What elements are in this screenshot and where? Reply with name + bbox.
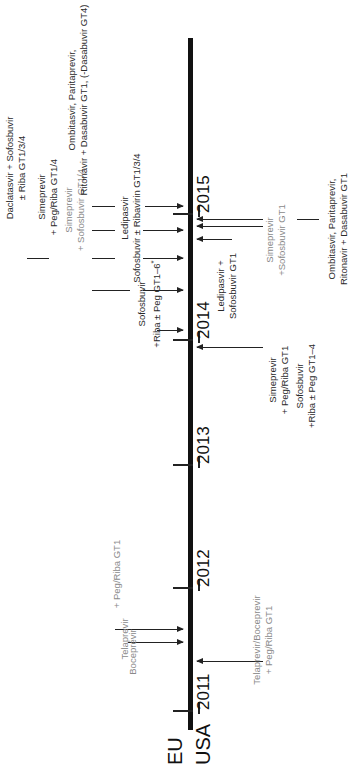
label-usa-sofosbuvir: Sofosbuvir +Riba ± Peg GT1–4 <box>294 336 322 436</box>
tick-2015-eu <box>173 213 193 215</box>
line-eu-ledipasvir <box>92 230 115 231</box>
line-eu-daclatasvir-a <box>27 258 49 259</box>
label-usa-simeprevir-sof: Simeprevir +Sofosbuvir GT1 <box>264 200 292 280</box>
year-label-2011: 2011 <box>195 673 212 710</box>
line-eu-daclatasvir-b <box>92 258 115 259</box>
line-eu-ombitasvir <box>92 206 115 207</box>
arrow-usa-ombitasvir <box>197 219 263 220</box>
timeline-axis <box>188 38 193 730</box>
year-label-2015: 2015 <box>195 175 212 213</box>
arrow-usa-ledipasvir <box>197 239 232 240</box>
tick-2011-eu <box>173 710 193 712</box>
label-eu-boceprevir: Boceprevir <box>127 572 139 732</box>
arrow-usa-simeprevir-peg <box>197 347 263 348</box>
line-usa-ombitasvir <box>297 219 319 220</box>
label-usa-ombitasvir: Ombitasvir, Paritaprevir, Ritonavir + Da… <box>326 164 352 294</box>
tick-2014-eu <box>173 339 193 341</box>
year-label-2013: 2013 <box>195 426 212 464</box>
arrow-usa-simeprevir-sof <box>197 226 263 227</box>
region-label-usa: USA <box>193 724 213 765</box>
arrow-eu-ledipasvir <box>143 230 183 231</box>
label-usa-simeprevir-peg: Simeprevir + Peg/Riba GT1 <box>267 335 295 425</box>
label-eu-peg-riba: + Peg/Riba GT1 <box>111 524 123 624</box>
year-label-2014: 2014 <box>195 301 212 339</box>
label-usa-ledipasvir: Ledipasvir + Sofosbuvir GT1 <box>215 246 243 326</box>
label-eu-ledipasvir: Ledipasvir Sofosbuvir ± Ribavirin GT1/3/… <box>119 143 147 293</box>
label-eu-ombitasvir: Ombitasvir, Paritaprevir, Ritonavir + Da… <box>66 0 94 200</box>
tick-2013-eu <box>173 464 193 466</box>
label-usa-telaprevir-boceprevir: Telaprevir/Boceprevir + Peg/Riba GT1 <box>251 585 279 695</box>
tick-2012-eu <box>173 587 193 589</box>
label-eu-simeprevir-peg: Simeprevir + Peg/Riba GT1/4 <box>36 147 64 247</box>
region-label-eu: EU <box>165 737 185 765</box>
arrow-eu-ombitasvir <box>145 206 183 207</box>
year-label-2012: 2012 <box>195 549 212 587</box>
label-eu-daclatasvir: Daclatasvir + Sofosbuvir ± Riba GT1/3/4 <box>4 108 32 228</box>
